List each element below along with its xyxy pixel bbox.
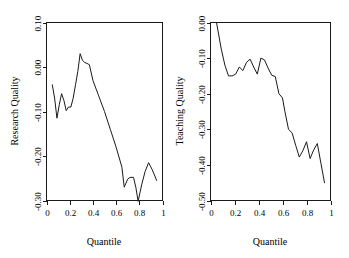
x-axis-tick-label: 0.2 <box>65 208 76 218</box>
research-x-axis-title: Quantile <box>87 236 122 247</box>
x-axis-tick-label: 0.6 <box>111 208 123 218</box>
x-axis-tick-label: 0.4 <box>254 208 266 218</box>
y-axis-tick-label: -0.20 <box>33 147 43 166</box>
teaching-y-axis: 0.00-0.10-0.20-0.30-0.40-0.50 <box>197 15 211 211</box>
y-axis-tick-label: 0.10 <box>33 15 43 31</box>
research-y-axis: 0.100.00-0.10-0.20-0.30 <box>33 15 47 211</box>
teaching-plot-frame <box>211 23 331 201</box>
x-axis-tick-label: 0.6 <box>278 208 290 218</box>
teaching-x-axis-title: Quantile <box>253 236 288 247</box>
teaching-quality-data-line <box>217 23 325 183</box>
y-axis-tick-label: 0.00 <box>33 59 43 75</box>
x-axis-tick-label: 0 <box>209 208 214 218</box>
teaching-quality-plot: 0.00-0.10-0.20-0.30-0.40-0.50 00.20.40.6… <box>174 0 349 258</box>
figure-panel-pair: 0.100.00-0.10-0.20-0.30 00.20.40.60.81 Q… <box>0 0 349 258</box>
y-axis-tick-label: 0.00 <box>197 15 207 31</box>
y-axis-tick-label: -0.10 <box>33 103 43 122</box>
plot-frame-rect <box>211 23 331 201</box>
chart-panel-research-quality: 0.100.00-0.10-0.20-0.30 00.20.40.60.81 Q… <box>0 0 175 258</box>
x-axis-tick-label: 1 <box>161 208 166 218</box>
y-axis-tick-label: -0.10 <box>197 49 207 68</box>
x-axis-tick-label: 0.4 <box>88 208 100 218</box>
x-axis-tick-label: 0 <box>45 208 50 218</box>
x-axis-tick-label: 0.8 <box>134 208 146 218</box>
x-axis-tick-label: 0.8 <box>302 208 314 218</box>
x-axis-tick-label: 0.2 <box>230 208 241 218</box>
y-axis-tick-label: -0.30 <box>33 192 43 211</box>
research-x-axis: 00.20.40.60.81 <box>45 201 166 218</box>
research-y-axis-title: Research Quality <box>9 76 20 145</box>
chart-panel-teaching-quality: 0.00-0.10-0.20-0.30-0.40-0.50 00.20.40.6… <box>174 0 349 258</box>
research-quality-plot: 0.100.00-0.10-0.20-0.30 00.20.40.60.81 Q… <box>0 0 175 258</box>
teaching-y-axis-title: Teaching Quality <box>174 77 185 146</box>
x-axis-tick-label: 1 <box>329 208 334 218</box>
y-axis-tick-label: -0.50 <box>197 192 207 211</box>
teaching-x-axis: 00.20.40.60.81 <box>209 201 334 218</box>
research-quality-data-line <box>52 54 156 202</box>
y-axis-tick-label: -0.40 <box>197 156 207 175</box>
y-axis-tick-label: -0.30 <box>197 120 207 139</box>
y-axis-tick-label: -0.20 <box>197 85 207 104</box>
